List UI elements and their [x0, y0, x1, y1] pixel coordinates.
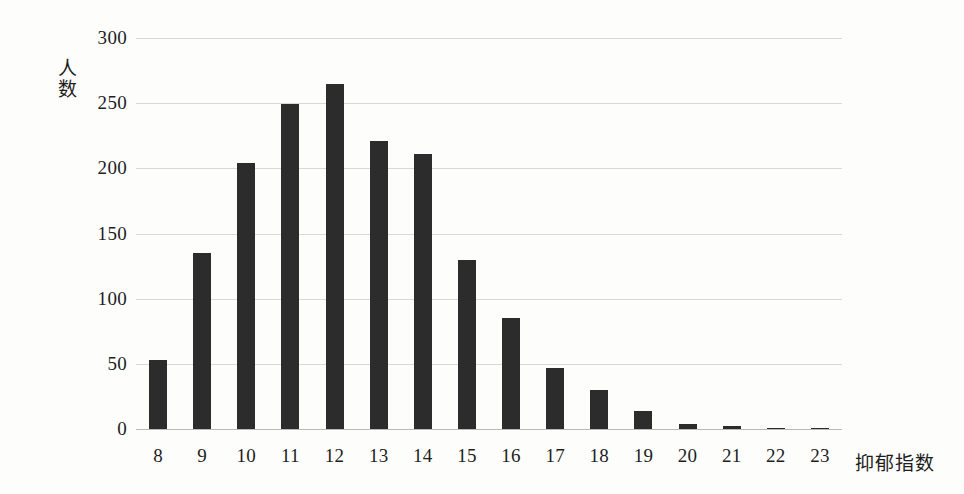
- y-tick-label: 300: [98, 27, 127, 49]
- bar-series: [136, 38, 842, 429]
- bar-slot: [180, 38, 224, 429]
- chart-screenshot: 人数 050100150200250300 891011121314151617…: [0, 0, 964, 494]
- x-tick-label: 21: [722, 445, 742, 467]
- bar-slot: [754, 38, 798, 429]
- bar: [767, 428, 785, 429]
- x-tick-label: 18: [590, 445, 610, 467]
- x-tick-label: 8: [153, 445, 163, 467]
- bar-slot: [533, 38, 577, 429]
- bar: [546, 368, 564, 429]
- x-tick-label: 12: [325, 445, 345, 467]
- bar: [149, 360, 167, 429]
- bar: [458, 260, 476, 429]
- bar-slot: [621, 38, 665, 429]
- x-axis-title: 抑郁指数: [855, 448, 935, 475]
- x-tick-label: 19: [634, 445, 654, 467]
- bar-slot: [136, 38, 180, 429]
- x-tick-label: 22: [766, 445, 786, 467]
- bar: [281, 104, 299, 429]
- x-tick-label: 15: [457, 445, 477, 467]
- y-tick-label: 150: [98, 223, 127, 245]
- bar: [370, 141, 388, 429]
- bar: [811, 428, 829, 429]
- bar: [502, 318, 520, 429]
- bar-slot: [666, 38, 710, 429]
- x-tick-label: 14: [413, 445, 433, 467]
- bar: [414, 154, 432, 429]
- bar-slot: [357, 38, 401, 429]
- x-tick-label: 16: [501, 445, 521, 467]
- x-tick-label: 9: [197, 445, 207, 467]
- y-tick-label: 100: [98, 288, 127, 310]
- x-tick-label: 10: [237, 445, 257, 467]
- y-tick-label: 200: [98, 157, 127, 179]
- bar: [193, 253, 211, 429]
- bar-slot: [224, 38, 268, 429]
- bar: [679, 424, 697, 429]
- bar-slot: [268, 38, 312, 429]
- x-tick-label: 13: [369, 445, 389, 467]
- y-tick-label: 250: [98, 92, 127, 114]
- y-tick-label: 50: [107, 353, 127, 375]
- bar-slot: [401, 38, 445, 429]
- bar-slot: [445, 38, 489, 429]
- bar: [590, 390, 608, 429]
- bar: [634, 411, 652, 429]
- bar-slot: [577, 38, 621, 429]
- bar: [723, 426, 741, 429]
- y-tick-label: 0: [117, 418, 127, 440]
- bar-slot: [798, 38, 842, 429]
- x-axis-baseline: [136, 429, 842, 430]
- x-tick-label: 11: [281, 445, 300, 467]
- bar: [237, 163, 255, 429]
- bar: [326, 84, 344, 429]
- bar-slot: [489, 38, 533, 429]
- y-axis-title: 人数: [52, 58, 79, 100]
- bar-slot: [313, 38, 357, 429]
- bar-slot: [710, 38, 754, 429]
- x-tick-label: 23: [810, 445, 830, 467]
- plot-area: 050100150200250300 891011121314151617181…: [136, 38, 842, 429]
- x-tick-label: 20: [678, 445, 698, 467]
- x-tick-label: 17: [545, 445, 565, 467]
